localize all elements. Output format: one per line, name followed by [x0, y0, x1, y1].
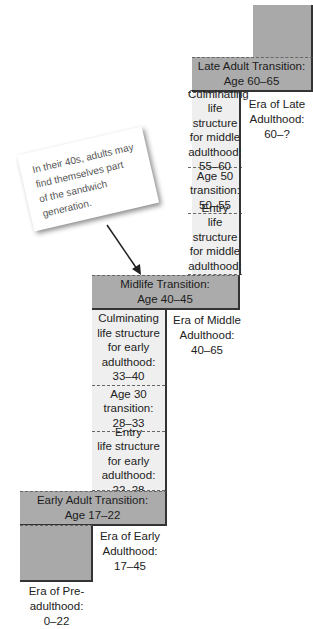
stage-line: Age 30	[92, 387, 165, 402]
stage-line: Culminating	[92, 311, 165, 326]
era-line: Adulthood:	[167, 328, 247, 343]
era-line: 0–22	[20, 614, 93, 629]
midlife-transition-age: Age 40–45	[137, 292, 193, 307]
early-adulthood-stages: Culminating life structure for early adu…	[92, 310, 165, 491]
era-line: adulthood:	[20, 599, 93, 614]
early-transition-title: Early Adult Transition:	[37, 493, 148, 508]
stage-entry-early: Entry life structure for early adulthood…	[92, 432, 165, 491]
era-middle-adulthood: Era of Middle Adulthood: 40–65	[167, 311, 247, 358]
era-line: Era of Middle	[167, 313, 247, 328]
stage-line: 33–40	[92, 369, 165, 384]
era-early-adulthood: Era of Early Adulthood: 17–45	[92, 528, 168, 574]
midlife-transition-title: Midlife Transition:	[120, 277, 209, 292]
midlife-transition-box: Midlife Transition: Age 40–45	[92, 275, 240, 310]
stage-line: life structure	[92, 439, 165, 454]
era-line: Adulthood:	[92, 544, 168, 559]
era-line: Era of Early	[92, 529, 168, 544]
stage-line: adulthood:	[92, 468, 165, 483]
stage-line: for early	[92, 454, 165, 469]
era-line: 17–45	[92, 559, 168, 574]
stage-line: Entry	[92, 425, 165, 440]
era-pre-adulthood: Era of Pre- adulthood: 0–22	[20, 584, 93, 629]
stage-line: life structure	[92, 326, 165, 341]
stage-line: adulthood:	[92, 355, 165, 370]
stage-culminating-early: Culminating life structure for early adu…	[92, 310, 165, 386]
era-line: Era of Pre-	[20, 584, 93, 599]
era-line: 40–65	[167, 343, 247, 358]
pre-adulthood-block	[20, 525, 93, 582]
stage-line: for early	[92, 340, 165, 355]
stage-line: transition:	[92, 401, 165, 416]
early-transition-age: Age 17–22	[65, 508, 121, 523]
early-adult-transition-box: Early Adult Transition: Age 17–22	[20, 491, 167, 526]
